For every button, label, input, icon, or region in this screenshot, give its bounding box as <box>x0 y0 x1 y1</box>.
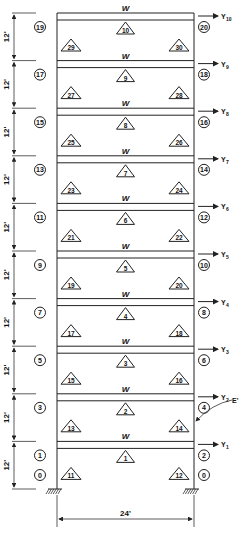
load-label-w: W <box>122 4 131 13</box>
node-1: 1 <box>38 452 42 459</box>
story-height-label: 12' <box>2 317 11 328</box>
column-element-19: 19 <box>67 282 75 289</box>
disp-subscript-7: 7 <box>226 159 229 165</box>
disp-subscript-10: 10 <box>226 16 232 22</box>
column-element-11: 11 <box>68 472 75 479</box>
story-height-label: 12' <box>2 269 11 280</box>
beam-element-4: 4 <box>124 313 128 320</box>
beam-element-7: 7 <box>124 170 128 177</box>
column-element-16: 16 <box>175 377 183 384</box>
node-14: 14 <box>200 166 208 173</box>
load-label-w: W <box>122 147 131 156</box>
node-16: 16 <box>200 119 208 126</box>
story-height-label: 12' <box>2 365 11 376</box>
load-label-w: W <box>122 290 131 299</box>
story-height-label: 12' <box>2 31 11 42</box>
frame-diagram: 00W1111212Y112'W2131434Y212'W3151656Y312… <box>0 0 245 538</box>
column-element-21: 21 <box>67 234 75 241</box>
node-12: 12 <box>200 214 208 221</box>
story-height-label: 12' <box>2 222 11 233</box>
column-element-12: 12 <box>175 472 183 479</box>
node-3: 3 <box>38 404 42 411</box>
node-8: 8 <box>202 309 206 316</box>
load-label-w: W <box>122 52 131 61</box>
column-element-23: 23 <box>67 187 75 194</box>
node-18: 18 <box>200 71 208 78</box>
node-11: 11 <box>36 214 44 221</box>
beam-element-6: 6 <box>124 217 128 224</box>
column-element-17: 17 <box>67 330 75 337</box>
node-10: 10 <box>200 262 208 269</box>
column-element-15: 15 <box>67 377 75 384</box>
node-0-left: 0 <box>38 472 42 479</box>
column-element-14: 14 <box>175 425 183 432</box>
disp-subscript-6: 6 <box>226 206 229 212</box>
load-label-w: W <box>122 337 131 346</box>
node-17: 17 <box>36 71 44 78</box>
column-element-29: 29 <box>67 44 75 51</box>
beam-element-3: 3 <box>124 360 128 367</box>
column-element-20: 20 <box>175 282 183 289</box>
load-label-w: W <box>122 242 131 251</box>
node-0-right: 0 <box>202 472 206 479</box>
node-6: 6 <box>202 357 206 364</box>
beam-element-2: 2 <box>124 408 128 415</box>
disp-subscript-5: 5 <box>226 254 229 260</box>
bay-width-label: 24' <box>120 509 131 518</box>
column-element-27: 27 <box>67 92 75 99</box>
beam-element-5: 5 <box>124 265 128 272</box>
story-height-label: 12' <box>2 127 11 138</box>
node-2: 2 <box>202 452 206 459</box>
node-9: 9 <box>38 262 42 269</box>
node-19: 19 <box>36 24 44 31</box>
load-label-w: W <box>122 99 131 108</box>
disp-subscript-1: 1 <box>226 444 229 450</box>
disp-subscript-2: 2 <box>226 397 229 403</box>
secant-label: E' <box>232 397 239 404</box>
column-element-28: 28 <box>175 92 183 99</box>
load-label-w: W <box>122 194 131 203</box>
beam-element-10: 10 <box>122 27 130 34</box>
disp-subscript-8: 8 <box>226 111 229 117</box>
story-height-label: 12' <box>2 79 11 90</box>
beam-element-1: 1 <box>124 455 128 462</box>
column-element-22: 22 <box>175 234 183 241</box>
load-label-w: W <box>122 432 131 441</box>
story-height-label: 12' <box>2 412 11 423</box>
story-height-label: 12' <box>2 174 11 185</box>
node-5: 5 <box>38 357 42 364</box>
disp-subscript-9: 9 <box>226 64 229 70</box>
column-element-26: 26 <box>175 139 183 146</box>
beam-element-8: 8 <box>124 122 128 129</box>
story-height-label: 12' <box>2 460 11 471</box>
beam-element-9: 9 <box>124 75 128 82</box>
node-15: 15 <box>36 119 44 126</box>
column-element-24: 24 <box>175 187 183 194</box>
node-7: 7 <box>38 309 42 316</box>
node-13: 13 <box>36 166 44 173</box>
column-element-13: 13 <box>67 425 75 432</box>
column-element-30: 30 <box>175 44 183 51</box>
disp-subscript-4: 4 <box>226 302 229 308</box>
node-20: 20 <box>200 24 208 31</box>
load-label-w: W <box>122 385 131 394</box>
column-element-25: 25 <box>67 139 75 146</box>
node-4: 4 <box>202 404 206 411</box>
disp-subscript-3: 3 <box>226 349 229 355</box>
column-element-18: 18 <box>175 330 183 337</box>
